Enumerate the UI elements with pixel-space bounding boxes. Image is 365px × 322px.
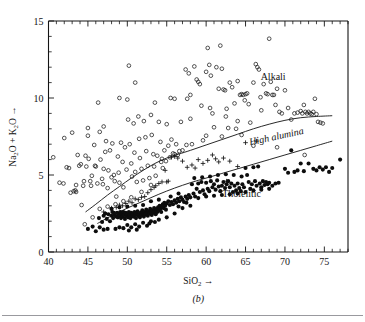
data-point bbox=[141, 203, 145, 207]
data-point bbox=[189, 117, 193, 121]
data-point bbox=[233, 102, 237, 106]
data-point bbox=[220, 135, 224, 139]
data-point bbox=[303, 153, 307, 157]
data-point bbox=[212, 182, 216, 186]
data-point bbox=[121, 226, 125, 230]
data-point bbox=[62, 136, 66, 140]
data-point bbox=[108, 219, 112, 223]
data-point bbox=[208, 106, 212, 110]
data-point bbox=[247, 102, 251, 106]
data-point bbox=[102, 125, 106, 129]
data-point bbox=[99, 158, 103, 162]
data-point bbox=[98, 225, 102, 229]
axis-titles-group: SiO2 →Na2O + K2O →(b) bbox=[8, 106, 213, 305]
data-point bbox=[107, 169, 111, 173]
data-point bbox=[62, 182, 66, 186]
tas-scatter-plot: 4045505560657075051015 AlkaliHigh alumin… bbox=[0, 0, 365, 322]
figure-caption: (b) bbox=[192, 293, 204, 305]
data-point bbox=[234, 127, 238, 131]
data-point bbox=[144, 135, 148, 139]
data-point bbox=[190, 182, 194, 186]
data-point bbox=[211, 112, 215, 116]
data-point bbox=[163, 149, 167, 153]
data-point bbox=[221, 156, 226, 161]
data-point bbox=[209, 74, 213, 78]
data-point bbox=[283, 88, 287, 92]
data-point bbox=[92, 143, 96, 147]
data-point bbox=[157, 198, 161, 202]
data-point bbox=[67, 166, 71, 170]
data-point bbox=[128, 142, 132, 146]
data-point bbox=[65, 165, 69, 169]
data-point bbox=[200, 104, 204, 108]
data-point bbox=[133, 204, 137, 208]
data-point bbox=[150, 133, 154, 137]
data-point bbox=[129, 162, 133, 166]
data-point bbox=[250, 182, 254, 186]
axes-group: 4045505560657075051015 bbox=[34, 16, 349, 267]
data-point bbox=[173, 97, 177, 101]
data-point bbox=[141, 179, 145, 183]
data-point bbox=[187, 72, 191, 76]
data-point bbox=[218, 44, 222, 48]
data-point bbox=[76, 153, 80, 157]
data-point bbox=[90, 174, 94, 178]
data-point bbox=[228, 81, 232, 85]
data-point bbox=[215, 178, 219, 182]
data-point bbox=[224, 115, 228, 119]
data-point bbox=[259, 108, 263, 112]
data-point bbox=[117, 205, 121, 209]
data-point bbox=[214, 188, 218, 192]
data-point bbox=[86, 126, 90, 130]
data-point bbox=[165, 215, 169, 219]
data-point bbox=[196, 157, 201, 162]
data-point bbox=[201, 139, 205, 143]
data-point bbox=[151, 152, 155, 156]
data-point bbox=[152, 165, 156, 169]
data-point bbox=[177, 205, 181, 209]
data-point bbox=[286, 171, 290, 175]
data-point bbox=[147, 221, 151, 225]
data-point bbox=[267, 37, 271, 41]
data-point bbox=[106, 205, 110, 209]
field-label-tholeiitic: Tholeiitic bbox=[222, 188, 261, 199]
data-point bbox=[132, 122, 136, 126]
data-point bbox=[163, 168, 168, 173]
data-point bbox=[159, 140, 163, 144]
data-point bbox=[125, 98, 129, 102]
data-point bbox=[123, 145, 127, 149]
data-point bbox=[209, 179, 213, 183]
y-axis-title: Na2O + K2O → bbox=[8, 106, 19, 166]
data-point bbox=[88, 179, 92, 183]
data-point bbox=[112, 173, 116, 177]
data-point bbox=[184, 201, 188, 205]
data-point bbox=[190, 142, 194, 146]
data-point bbox=[125, 168, 129, 172]
data-point bbox=[189, 93, 193, 97]
data-point bbox=[208, 174, 212, 178]
data-point bbox=[133, 170, 137, 174]
data-point bbox=[185, 165, 190, 170]
y-tick-label: 15 bbox=[34, 16, 44, 27]
data-point bbox=[153, 101, 157, 105]
data-point bbox=[177, 191, 181, 195]
x-tick-label: 50 bbox=[122, 256, 132, 267]
data-point bbox=[188, 195, 192, 199]
data-point bbox=[192, 176, 196, 180]
data-point bbox=[94, 229, 98, 233]
data-point bbox=[164, 159, 168, 163]
data-point bbox=[212, 194, 216, 198]
data-point bbox=[299, 161, 303, 165]
data-point bbox=[252, 81, 256, 85]
data-point bbox=[100, 177, 104, 181]
data-point bbox=[170, 138, 174, 142]
data-point bbox=[127, 64, 131, 68]
data-point bbox=[216, 160, 221, 165]
data-point bbox=[102, 167, 106, 171]
data-point bbox=[243, 140, 248, 145]
data-point bbox=[245, 173, 249, 177]
data-point bbox=[157, 218, 161, 222]
data-point bbox=[185, 97, 189, 101]
data-point bbox=[227, 159, 232, 164]
data-point bbox=[153, 220, 157, 224]
